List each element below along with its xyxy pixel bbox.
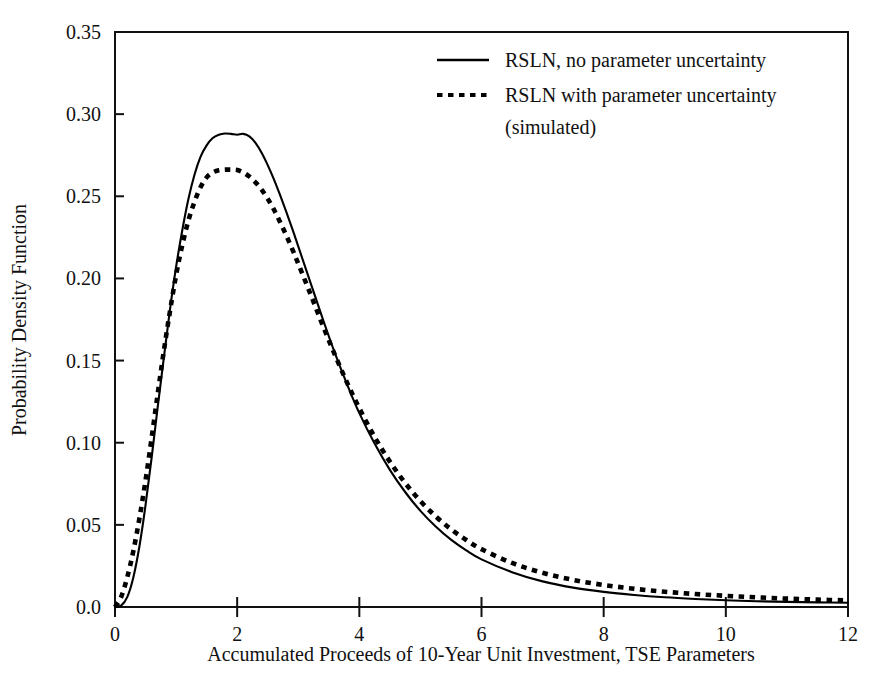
x-tick-label: 10 [716, 623, 736, 645]
y-tick-label: 0.10 [66, 432, 101, 454]
chart-figure: 0.00.050.100.150.200.250.300.35 02468101… [0, 0, 878, 678]
x-tick-label: 0 [110, 623, 120, 645]
y-tick-label: 0.20 [66, 267, 101, 289]
legend-label-dashed-continued: (simulated) [505, 116, 596, 139]
x-tick-label: 12 [838, 623, 858, 645]
x-tick-label: 2 [232, 623, 242, 645]
y-tick-label: 0.35 [66, 21, 101, 43]
probability-density-chart: 0.00.050.100.150.200.250.300.35 02468101… [0, 0, 878, 678]
legend-label-solid: RSLN, no parameter uncertainty [505, 49, 766, 72]
legend-label-dashed: RSLN with parameter uncertainty [505, 84, 777, 107]
y-tick-label: 0.25 [66, 185, 101, 207]
y-tick-label: 0.05 [66, 514, 101, 536]
y-tick-label: 0.30 [66, 103, 101, 125]
x-tick-label: 8 [599, 623, 609, 645]
y-axis-title: Probability Density Function [8, 204, 31, 436]
y-tick-label: 0.15 [66, 350, 101, 372]
x-axis-title: Accumulated Proceeds of 10-Year Unit Inv… [207, 643, 755, 665]
x-tick-label: 4 [354, 623, 364, 645]
y-tick-label: 0.0 [76, 596, 101, 618]
x-tick-label: 6 [477, 623, 487, 645]
